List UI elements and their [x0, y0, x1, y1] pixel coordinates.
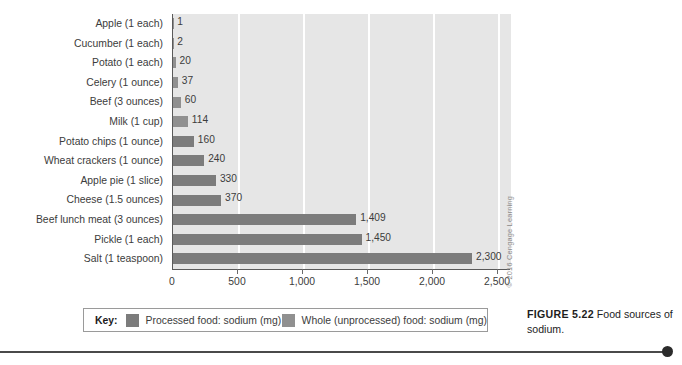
chart-legend: Key: Processed food: sodium (mg) Whole (… — [83, 308, 488, 332]
bar-value-label: 240 — [204, 153, 225, 164]
legend-entry-processed: Processed food: sodium (mg) — [126, 314, 282, 327]
category-label: Pickle (1 each) — [0, 230, 168, 250]
bar-row: 160 — [173, 132, 511, 152]
bar-value-label: 20 — [176, 55, 191, 66]
bar-value-label: 37 — [178, 75, 193, 86]
figure-block: Apple (1 each)Cucumber (1 each)Potato (1… — [0, 0, 520, 300]
x-axis-tick — [497, 269, 498, 274]
category-axis: Apple (1 each)Cucumber (1 each)Potato (1… — [0, 14, 168, 269]
x-axis-tick-label: 1,000 — [289, 276, 315, 287]
page-divider-dot — [662, 346, 673, 357]
page-divider-rule — [0, 351, 668, 353]
legend-title: Key: — [95, 315, 118, 326]
bar-row: 1,450 — [173, 230, 511, 250]
bar-value-label: 2 — [173, 36, 183, 47]
legend-entry-whole: Whole (unprocessed) food: sodium (mg) — [282, 314, 487, 327]
bar-value-label: 160 — [194, 134, 215, 145]
category-label: Cucumber (1 each) — [0, 34, 168, 54]
category-label: Salt (1 teaspoon) — [0, 249, 168, 269]
figure-caption: FIGURE 5.22 Food sources of sodium. — [527, 307, 677, 336]
bar — [173, 97, 181, 108]
bar-row: 37 — [173, 73, 511, 93]
bar-value-label: 114 — [188, 114, 208, 125]
bar-row: 20 — [173, 53, 511, 73]
legend-swatch-processed — [126, 314, 139, 327]
category-label: Potato (1 each) — [0, 53, 168, 73]
category-label: Apple pie (1 slice) — [0, 171, 168, 191]
category-label: Potato chips (1 ounce) — [0, 132, 168, 152]
figure-caption-label: FIGURE 5.22 — [527, 308, 594, 320]
category-label: Celery (1 ounce) — [0, 73, 168, 93]
x-axis-tick-label: 500 — [228, 276, 245, 287]
bar — [173, 253, 472, 264]
category-label: Wheat crackers (1 ounce) — [0, 151, 168, 171]
legend-swatch-whole — [282, 314, 295, 327]
bar-value-label: 1 — [173, 16, 183, 27]
legend-label-processed: Processed food: sodium (mg) — [146, 315, 282, 326]
bar-row: 1,409 — [173, 210, 511, 230]
bar-row: 240 — [173, 151, 511, 171]
bar-series: 122037601141602403303701,4091,4502,300 — [173, 14, 511, 269]
plot-area: 122037601141602403303701,4091,4502,300 — [172, 14, 511, 269]
bar-row: 2,300 — [173, 249, 511, 269]
bar-row: 60 — [173, 92, 511, 112]
category-label: Beef (3 ounces) — [0, 92, 168, 112]
x-axis-tick-label: 2,000 — [419, 276, 445, 287]
bar-value-label: 1,409 — [356, 212, 386, 223]
bar — [173, 116, 188, 127]
bar — [173, 195, 221, 206]
bar — [173, 155, 204, 166]
x-axis-tick-label: 0 — [169, 276, 175, 287]
bar — [173, 175, 216, 186]
bar — [173, 234, 362, 245]
bar-value-label: 370 — [221, 192, 242, 203]
x-axis-tick — [432, 269, 433, 274]
category-label: Cheese (1.5 ounces) — [0, 190, 168, 210]
bar-row: 2 — [173, 34, 511, 54]
bar-value-label: 2,300 — [472, 251, 502, 262]
bar-value-label: 60 — [181, 94, 196, 105]
x-axis-tick-label: 1,500 — [354, 276, 380, 287]
bar-row: 1 — [173, 14, 511, 34]
bar — [173, 214, 356, 225]
category-label: Milk (1 cup) — [0, 112, 168, 132]
x-axis-tick — [302, 269, 303, 274]
bar-row: 370 — [173, 190, 511, 210]
x-axis-line — [172, 269, 510, 270]
bar-value-label: 1,450 — [362, 232, 392, 243]
x-axis-tick — [367, 269, 368, 274]
category-label: Beef lunch meat (3 ounces) — [0, 210, 168, 230]
category-label: Apple (1 each) — [0, 14, 168, 34]
bar — [173, 136, 194, 147]
legend-label-whole: Whole (unprocessed) food: sodium (mg) — [302, 315, 487, 326]
bar-value-label: 330 — [216, 173, 237, 184]
bar-row: 114 — [173, 112, 511, 132]
copyright-notice: © 2016 Cengage Learning — [505, 196, 514, 287]
x-axis-tick — [237, 269, 238, 274]
bar-row: 330 — [173, 171, 511, 191]
